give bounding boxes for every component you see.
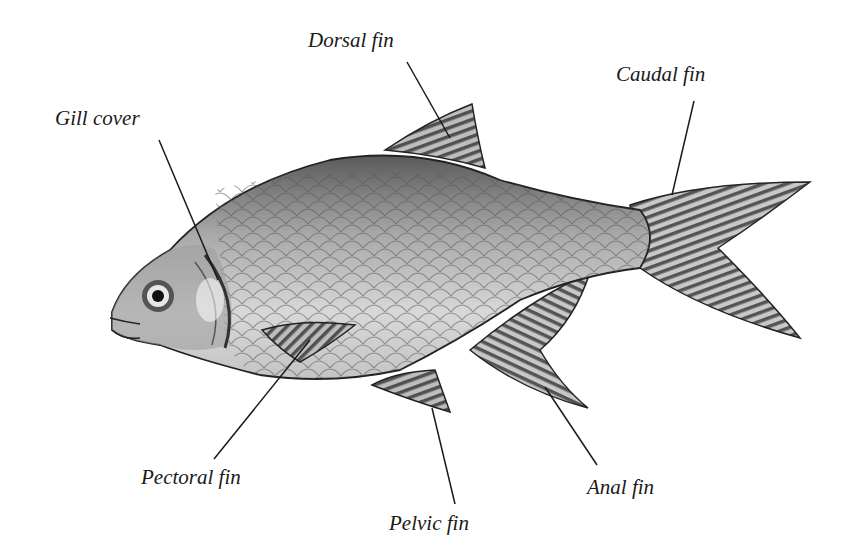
caudal-fin: [630, 182, 810, 338]
pelvic-fin: [372, 370, 450, 412]
label-dorsal-fin: Dorsal fin: [308, 30, 394, 51]
fish-illustration: [0, 0, 865, 550]
caudal-fin-leader-line: [672, 101, 694, 195]
label-gill-cover: Gill cover: [55, 108, 140, 129]
label-anal-fin: Anal fin: [587, 477, 654, 498]
label-pectoral-fin: Pectoral fin: [141, 467, 241, 488]
label-pelvic-fin: Pelvic fin: [389, 513, 469, 534]
fish-anatomy-diagram: Dorsal fin Caudal fin Gill cover Pectora…: [0, 0, 865, 550]
fish-head: [110, 245, 232, 350]
label-caudal-fin: Caudal fin: [616, 64, 705, 85]
pelvic-fin-leader-line: [432, 408, 455, 504]
